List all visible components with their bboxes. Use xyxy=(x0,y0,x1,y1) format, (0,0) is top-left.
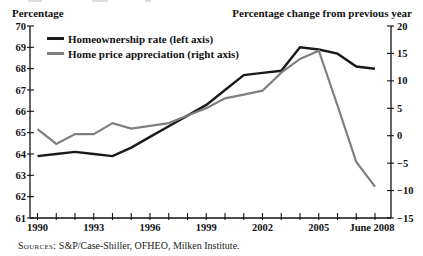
sources-prefix: Sources: xyxy=(18,240,56,251)
legend-label-homeownership: Homeownership rate (left axis) xyxy=(68,33,213,45)
right-axis-tick-label: 5 xyxy=(397,103,402,114)
left-axis-tick-label: 69 xyxy=(16,42,27,53)
left-axis-tick-label: 70 xyxy=(16,21,27,32)
left-axis-tick-label: 63 xyxy=(16,170,27,181)
legend: Homeownership rate (left axis) Home pric… xyxy=(47,31,239,61)
x-axis-tick-label: 2002 xyxy=(252,222,273,233)
legend-label-home-price: Home price appreciation (right axis) xyxy=(68,48,239,60)
x-axis-tick-label: 1993 xyxy=(83,222,104,233)
legend-line-swatch-homeownership xyxy=(47,37,64,40)
right-axis-tick-label: 0 xyxy=(397,130,402,141)
figure: Percentage Percentage change from previo… xyxy=(0,0,423,256)
right-axis-tick-label: 15 xyxy=(397,48,408,59)
x-axis-tick-label: 1996 xyxy=(140,222,161,233)
left-axis-tick-label: 67 xyxy=(16,85,27,96)
left-axis-tick-label: 68 xyxy=(16,63,27,74)
sources-text: S&P/Case-Shiller, OFHEO, Milken Institut… xyxy=(56,240,239,251)
left-axis-tick-label: 61 xyxy=(16,213,27,224)
x-axis-tick-label: June 2008 xyxy=(349,222,394,233)
legend-line-swatch-home-price xyxy=(47,52,64,55)
left-axis-tick-label: 66 xyxy=(16,106,27,117)
legend-item-home-price: Home price appreciation (right axis) xyxy=(47,46,239,61)
legend-item-homeownership: Homeownership rate (left axis) xyxy=(47,31,239,46)
homeownership-rate-line xyxy=(38,47,376,156)
right-axis-tick-label: 20 xyxy=(397,21,408,32)
sources-note: Sources: S&P/Case-Shiller, OFHEO, Milken… xyxy=(18,240,240,251)
home-price-appreciation-line xyxy=(38,51,376,187)
left-axis-tick-label: 65 xyxy=(16,127,27,138)
x-axis-tick-label: 1990 xyxy=(27,222,48,233)
left-axis-tick-label: 62 xyxy=(16,191,27,202)
x-axis-tick-label: 2005 xyxy=(308,222,329,233)
right-axis-tick-label: −10 xyxy=(397,185,413,196)
x-axis-tick-label: 1999 xyxy=(196,222,217,233)
right-axis-tick-label: −5 xyxy=(397,158,408,169)
right-axis-tick-label: −15 xyxy=(397,213,413,224)
left-axis-tick-label: 64 xyxy=(16,149,27,160)
right-axis-tick-label: 10 xyxy=(397,75,408,86)
